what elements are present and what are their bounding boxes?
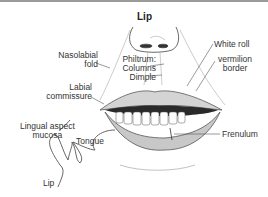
label-philtrum: Philtrum: Columns Dimple [112, 55, 156, 82]
diagram-title: Lip [137, 11, 152, 22]
lips-drawing [100, 91, 222, 170]
nose-drawing [130, 27, 179, 52]
label-white-roll: White roll [214, 40, 249, 49]
label-vermilion-border: vermilion border [218, 55, 252, 73]
label-frenulum: Frenulum [222, 130, 258, 139]
label-labial-commissure: Labial commissure [40, 83, 92, 101]
label-lingual-aspect-mucosa: Lingual aspect mucosa [20, 122, 75, 140]
label-tongue: Tongue [76, 137, 104, 146]
label-lip-inset: Lip [43, 179, 54, 188]
label-nasolabial-fold: Nasolabial fold [58, 51, 98, 69]
